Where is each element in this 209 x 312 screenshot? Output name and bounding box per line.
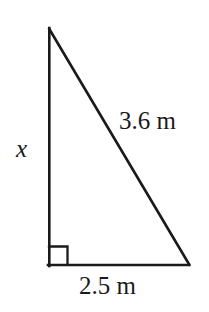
right-triangle-drawing — [0, 0, 209, 312]
hypotenuse-length-label: 3.6 m — [119, 108, 176, 133]
right-angle-square-icon — [49, 247, 68, 265]
geometry-figure: 3.6 m 2.5 m x — [0, 0, 209, 312]
hypotenuse-line — [49, 29, 190, 266]
unknown-side-label: x — [16, 136, 27, 161]
base-length-label: 2.5 m — [79, 273, 136, 298]
